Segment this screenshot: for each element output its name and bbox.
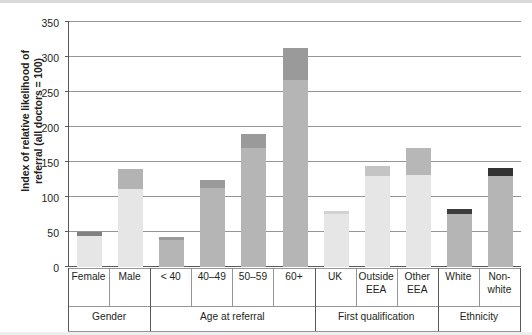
- y-tick-label-250: 250: [29, 87, 59, 99]
- category-label-other: OtherEEA: [397, 268, 438, 306]
- bar-segment-top: [447, 209, 472, 214]
- category-label-line1: < 40: [150, 271, 191, 284]
- group-label-ethnicity: Ethnicity: [438, 306, 520, 332]
- category-separator: [438, 268, 439, 306]
- category-separator: [479, 268, 480, 306]
- group-separator: [68, 306, 69, 332]
- bar-segment-base: [200, 188, 225, 267]
- y-tick-label-100: 100: [29, 192, 59, 204]
- bar-chart-figure: Index of relative likelihood of referral…: [0, 0, 532, 335]
- y-tick-label-200: 200: [29, 122, 59, 134]
- bar-segment-base: [77, 236, 102, 267]
- category-label-line1: White: [438, 271, 479, 284]
- y-tick-mark-150: [65, 161, 69, 162]
- bar-segment-top: [77, 232, 102, 236]
- y-tick-mark-350: [65, 21, 69, 22]
- category-label-uk: UK: [315, 268, 356, 306]
- bar-segment-top: [488, 168, 513, 176]
- category-label-female: Female: [68, 268, 109, 306]
- y-tick-label-350: 350: [29, 17, 59, 29]
- category-label-40-49: 40–49: [191, 268, 232, 306]
- category-label-line2: EEA: [397, 284, 438, 297]
- bar-segment-top: [118, 169, 143, 189]
- bar-segment-base: [447, 214, 472, 267]
- category-label-line2: EEA: [356, 284, 397, 297]
- group-separator: [150, 306, 151, 332]
- category-separator: [191, 268, 192, 306]
- bar-40-49: [200, 180, 225, 267]
- category-label-white: White: [438, 268, 479, 306]
- bar--40: [159, 237, 184, 267]
- bar-non-: [488, 168, 513, 267]
- bar-outside: [365, 166, 390, 268]
- bar-uk: [324, 211, 349, 267]
- category-label-outside: OutsideEEA: [356, 268, 397, 306]
- bar-segment-top: [200, 180, 225, 188]
- category-label-line1: UK: [315, 271, 356, 284]
- category-separator: [232, 268, 233, 306]
- bar-segment-top: [283, 48, 308, 80]
- category-separator: [397, 268, 398, 306]
- y-tick-mark-100: [65, 196, 69, 197]
- category-separator: [109, 268, 110, 306]
- category-label--40: < 40: [150, 268, 191, 306]
- category-label-line2: white: [479, 284, 520, 297]
- bar-segment-base: [159, 240, 184, 267]
- category-separator: [273, 268, 274, 306]
- y-tick-mark-300: [65, 56, 69, 57]
- y-tick-label-50: 50: [29, 227, 59, 239]
- category-label-line1: Male: [109, 271, 150, 284]
- category-label-non-: Non-white: [479, 268, 520, 306]
- plot-area: 050100150200250300350: [68, 22, 521, 267]
- bar-segment-top: [406, 148, 431, 175]
- gridline-350: [69, 21, 521, 22]
- bar-segment-top: [324, 211, 349, 214]
- bar-segment-base: [241, 148, 266, 267]
- category-label-line1: Other: [397, 271, 438, 284]
- bar-segment-base: [365, 176, 390, 267]
- y-tick-mark-250: [65, 91, 69, 92]
- y-axis-title-line2: referral (all doctors = 100): [32, 1, 45, 241]
- bar-white: [447, 209, 472, 267]
- group-band-bottom-line: [68, 331, 520, 332]
- category-label-50-59: 50–59: [232, 268, 273, 306]
- y-tick-mark-50: [65, 231, 69, 232]
- category-label-line1: Outside: [356, 271, 397, 284]
- category-separator: [520, 268, 521, 306]
- bar-segment-base: [488, 176, 513, 267]
- category-label-band: FemaleMale< 4040–4950–5960+UKOutsideEEAO…: [68, 268, 520, 306]
- category-label-line1: Female: [68, 271, 109, 284]
- bar-other: [406, 148, 431, 267]
- bar-segment-base: [118, 189, 143, 267]
- category-separator: [150, 268, 151, 306]
- y-tick-mark-200: [65, 126, 69, 127]
- category-separator: [68, 268, 69, 306]
- category-label-line1: Non-: [479, 271, 520, 284]
- y-axis-title: Index of relative likelihood of referral…: [19, 1, 45, 241]
- bar-segment-base: [406, 175, 431, 267]
- y-tick-label-150: 150: [29, 157, 59, 169]
- group-separator: [315, 306, 316, 332]
- category-label-line1: 40–49: [191, 271, 232, 284]
- category-label-60-: 60+: [273, 268, 314, 306]
- y-axis-title-line1: Index of relative likelihood of: [19, 1, 32, 241]
- group-label-gender: Gender: [68, 306, 150, 332]
- bar-50-59: [241, 134, 266, 267]
- bar-segment-top: [365, 166, 390, 177]
- bar-segment-base: [324, 214, 349, 267]
- category-label-line1: 50–59: [232, 271, 273, 284]
- y-tick-mark-0: [65, 266, 69, 267]
- bar-segment-base: [283, 80, 308, 267]
- bar-60-: [283, 48, 308, 267]
- group-label-band: GenderAge at referralFirst qualification…: [68, 306, 520, 332]
- category-label-line1: 60+: [273, 271, 314, 284]
- category-separator: [315, 268, 316, 306]
- group-separator: [520, 306, 521, 332]
- category-separator: [356, 268, 357, 306]
- bar-male: [118, 169, 143, 267]
- bar-segment-top: [159, 237, 184, 241]
- y-tick-label-0: 0: [29, 262, 59, 274]
- bar-segment-top: [241, 134, 266, 148]
- group-separator: [438, 306, 439, 332]
- category-label-male: Male: [109, 268, 150, 306]
